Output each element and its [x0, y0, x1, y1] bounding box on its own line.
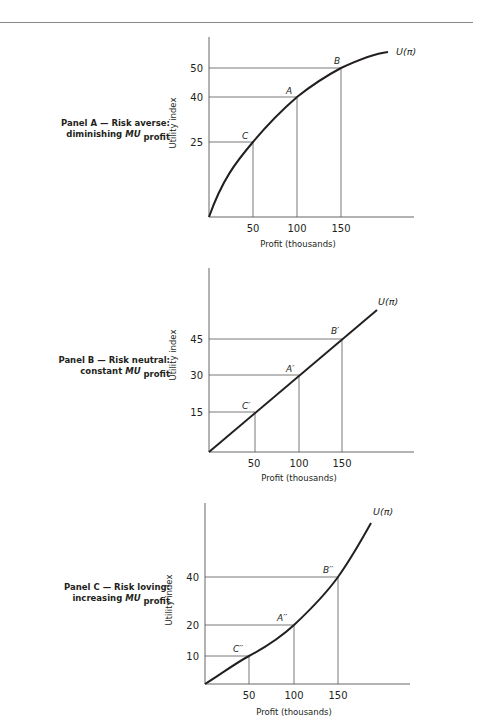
svg-text:30: 30: [190, 370, 203, 381]
panel-c-x-ticks: 50 100 150: [243, 690, 348, 701]
panel-c-y-label: Utility index: [164, 575, 174, 626]
svg-text:50: 50: [243, 690, 256, 701]
svg-text:C′′: C′′: [233, 644, 243, 654]
svg-text:40: 40: [186, 572, 199, 583]
panel-a-y-ticks: 50 40 25: [190, 63, 203, 148]
svg-text:100: 100: [287, 223, 306, 234]
panel-c-utility-curve: [205, 523, 371, 684]
svg-text:25: 25: [190, 137, 203, 148]
svg-text:150: 150: [328, 690, 347, 701]
svg-text:15: 15: [190, 407, 203, 418]
panel-b-chart: 45 30 15 50 100 150 Profit (thousands) U…: [168, 268, 414, 483]
panel-a-guides: [209, 68, 341, 217]
panel-b-y-ticks: 45 30 15: [190, 334, 203, 418]
svg-text:45: 45: [190, 334, 203, 345]
panel-c-chart: 40 20 10 50 100 150 Profit (thousands) U…: [164, 503, 410, 717]
svg-text:50: 50: [248, 458, 261, 469]
panel-c-y-ticks: 40 20 10: [186, 572, 199, 662]
panel-c-point-labels: C′′ A′′ B′′: [233, 565, 333, 654]
panel-a-y-label: Utility index: [168, 98, 178, 149]
panel-a-x-label: Profit (thousands): [260, 239, 336, 249]
charts-canvas: 50 40 25 50 100 150 Profit (thousands) U…: [0, 0, 478, 726]
svg-text:C′: C′: [242, 401, 250, 411]
panel-b-curve-label: U(π): [378, 296, 398, 307]
svg-text:A′′: A′′: [276, 613, 287, 623]
svg-text:B′: B′: [331, 326, 339, 336]
svg-text:50: 50: [247, 223, 260, 234]
svg-text:C: C: [242, 131, 249, 141]
svg-text:20: 20: [186, 620, 199, 631]
svg-text:150: 150: [331, 223, 350, 234]
panel-c-curve-label: U(π): [373, 506, 393, 517]
svg-text:100: 100: [284, 690, 303, 701]
panel-c-guides: [205, 577, 338, 684]
svg-text:A′: A′: [285, 364, 294, 374]
svg-text:B′′: B′′: [323, 565, 333, 575]
panel-a-curve-label: U(π): [396, 46, 416, 57]
panel-b-utility-line: [209, 310, 377, 452]
svg-text:A: A: [285, 86, 292, 96]
panel-b-y-label: Utility index: [168, 330, 178, 381]
panel-a-chart: 50 40 25 50 100 150 Profit (thousands) U…: [168, 37, 416, 249]
panel-a-utility-curve: [209, 52, 388, 217]
panel-a-x-ticks: 50 100 150: [247, 223, 351, 234]
panel-b-x-ticks: 50 100 150: [248, 458, 352, 469]
svg-text:150: 150: [332, 458, 351, 469]
panel-c-x-label: Profit (thousands): [256, 707, 332, 717]
svg-text:10: 10: [186, 651, 199, 662]
panel-a-point-labels: C A B: [242, 56, 340, 141]
svg-text:100: 100: [289, 458, 308, 469]
panel-b-x-label: Profit (thousands): [261, 473, 337, 483]
svg-text:B: B: [334, 56, 340, 66]
svg-text:40: 40: [190, 92, 203, 103]
svg-text:50: 50: [190, 63, 203, 74]
